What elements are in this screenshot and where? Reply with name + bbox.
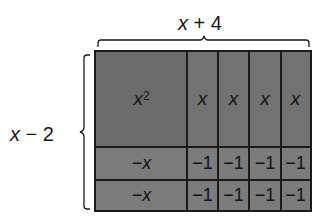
tile-label: −1	[285, 153, 306, 174]
tile-label: x	[198, 88, 208, 110]
tile-negative-one: −1	[281, 181, 310, 210]
tile-label: x	[133, 88, 143, 110]
tile-negative-one: −1	[281, 148, 310, 179]
tile-negative-one: −1	[249, 148, 281, 179]
tile-x-squared: x2	[96, 52, 187, 146]
tile-label: −1	[255, 153, 276, 174]
tile-label: x	[142, 153, 151, 174]
grid-divider	[96, 179, 310, 181]
top-brace	[98, 36, 309, 47]
tile-grid: x2 x x x x −x −1 −1 −1 −1 −x −1 −1 −1 −1	[94, 50, 312, 212]
grid-divider	[96, 146, 310, 148]
tile-sign: −	[132, 185, 143, 206]
tile-x: x	[187, 52, 218, 146]
tile-x: x	[218, 52, 249, 146]
tile-label: x	[260, 88, 270, 110]
tile-x: x	[249, 52, 281, 146]
tile-label: x	[291, 88, 301, 110]
top-dimension-rest: + 4	[188, 12, 222, 34]
tile-label: −1	[223, 185, 244, 206]
tile-negative-one: −1	[249, 181, 281, 210]
tile-negative-x: −x	[96, 181, 187, 210]
tile-negative-one: −1	[218, 181, 249, 210]
grid-divider	[217, 52, 219, 210]
tile-label: −1	[285, 185, 306, 206]
grid-divider	[280, 52, 282, 210]
left-brace	[80, 55, 90, 209]
tile-label: −1	[255, 185, 276, 206]
tile-sign: −	[132, 153, 143, 174]
left-dimension-variable: x	[10, 123, 20, 145]
tile-label: x	[229, 88, 239, 110]
tile-negative-one: −1	[187, 148, 218, 179]
grid-divider	[248, 52, 250, 210]
left-dimension-rest: − 2	[20, 123, 54, 145]
tile-label: −1	[223, 153, 244, 174]
tile-label: x	[142, 185, 151, 206]
tile-negative-one: −1	[218, 148, 249, 179]
grid-divider	[186, 52, 188, 210]
tile-negative-x: −x	[96, 148, 187, 179]
tile-label: −1	[192, 153, 213, 174]
tile-negative-one: −1	[187, 181, 218, 210]
tile-x: x	[281, 52, 310, 146]
top-dimension-label: x + 4	[178, 12, 222, 35]
top-dimension-variable: x	[178, 12, 188, 34]
tile-label: −1	[192, 185, 213, 206]
tile-exponent: 2	[143, 89, 150, 103]
left-dimension-label: x − 2	[10, 123, 54, 146]
